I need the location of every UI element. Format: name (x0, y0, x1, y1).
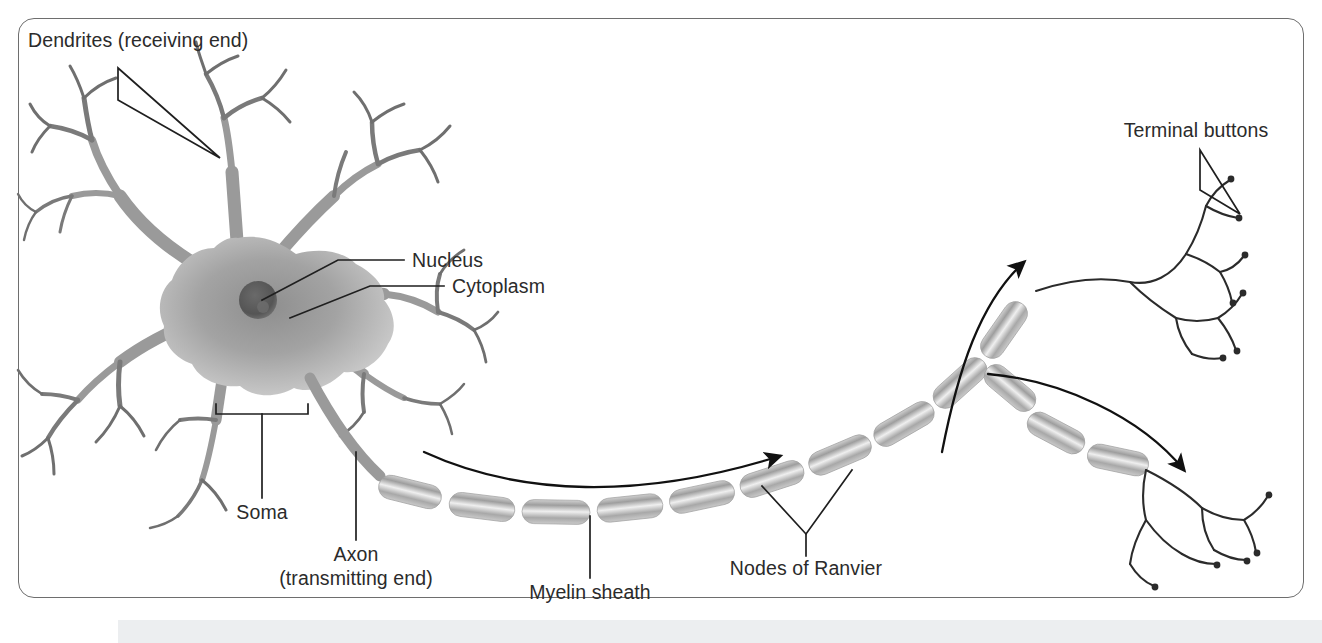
neuron-diagram-page: Dendrites (receiving end) Nucleus Cytopl… (0, 0, 1322, 643)
label-myelin-sheath: Myelin sheath (510, 580, 670, 604)
label-terminal-buttons: Terminal buttons (1108, 118, 1284, 142)
label-soma: Soma (222, 500, 302, 524)
label-nodes-of-ranvier: Nodes of Ranvier (718, 556, 894, 580)
terminal-buttons-group (1152, 176, 1273, 591)
label-nucleus: Nucleus (412, 248, 483, 272)
label-axon-line2: (transmitting end) (276, 566, 436, 590)
arrow-axon-distal-up (942, 262, 1024, 452)
myelin-sheath-group (376, 297, 1151, 525)
label-cytoplasm: Cytoplasm (452, 274, 545, 298)
leader-soma (216, 404, 308, 414)
label-axon-line1: Axon (276, 542, 436, 566)
neuron-illustration (0, 0, 1322, 643)
axon-initial-segment (310, 378, 380, 476)
label-dendrites: Dendrites (receiving end) (28, 28, 248, 52)
leader-dendrites (118, 68, 220, 158)
nucleolus (257, 301, 269, 313)
nucleus (239, 281, 277, 319)
terminal-branches-group (1036, 180, 1268, 586)
